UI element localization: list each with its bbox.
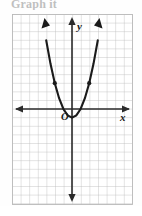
graph-svg: y x O [12,14,133,205]
coordinate-graph: y x O [12,14,133,205]
marked-point [53,81,57,85]
y-axis-label: y [75,20,82,32]
bottom-spacer [0,206,142,216]
marked-point [87,81,91,85]
x-axis-label: x [119,111,126,123]
figure-header-text: Graph it [11,0,131,10]
figure-container: Graph it [0,0,142,216]
origin-label: O [61,111,69,122]
